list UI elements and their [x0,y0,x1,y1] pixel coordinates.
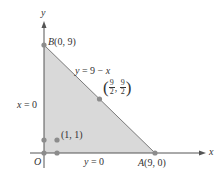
origin-label: O [34,157,41,167]
point-A-label: A(9, 0) [138,158,166,168]
y-axis-label: y [41,8,45,18]
point-0-1 [41,137,46,142]
boundary-label-hypotenuse: y = 9 − x [75,66,110,76]
right-paren: ) [126,78,132,97]
point-1-1 [54,137,59,142]
point-origin [41,150,46,155]
y0-rest: = 0 [88,156,104,167]
point-B-label: B(0, 9) [48,37,76,47]
hyp-rest: = 9 − [79,65,105,76]
y-axis-arrow-icon [42,21,47,28]
point-midpoint [97,96,102,101]
point-1-0 [54,150,59,155]
point-B-coords: (0, 9) [54,36,76,47]
x-axis-arrow-icon [199,151,206,156]
point-B [41,42,46,47]
boundary-label-y-0: y = 0 [84,157,104,167]
hyp-x-var: x [106,65,110,76]
point-1-1-label: (1, 1) [61,130,83,140]
midpoint-label: (92, 92) [103,79,131,96]
boundary-label-x-0: x = 0 [17,100,37,110]
point-A [152,150,157,155]
point-A-coords: (9, 0) [144,157,166,168]
x-axis-label: x [209,147,213,157]
x0-rest: = 0 [21,99,37,110]
